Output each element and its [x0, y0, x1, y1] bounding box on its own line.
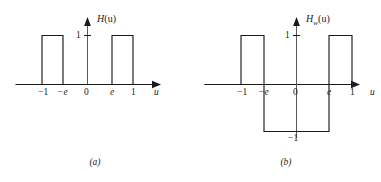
x-tick-label-e-a: e [110, 88, 114, 98]
x-axis-label-a: u [154, 88, 159, 98]
y-axis-label-b: Hw(u) [306, 14, 330, 27]
panel-a: H(u) −1 −e 0 e 1 u 1 (a) [0, 0, 190, 182]
x-tick-label-zero-a: 0 [84, 88, 89, 98]
x-tick-label-e-b: e [327, 88, 331, 98]
waveform-b [205, 36, 352, 132]
panel-caption-a: (a) [0, 157, 190, 167]
y-tick-label-neg1-b: −1 [288, 134, 298, 144]
x-axis-label-b: u [370, 88, 375, 98]
y-axis-label-a: H(u) [97, 14, 116, 27]
x-tick-label-neg1-a: −1 [38, 88, 48, 98]
y-tick-label-1-b: 1 [285, 31, 290, 41]
y-axis-a [84, 17, 91, 85]
panel-a-plot [0, 0, 190, 150]
panel-b: Hw(u) −1 −e 0 e 1 u 1 −1 (b) [191, 0, 381, 182]
y-tick-label-1-a: 1 [76, 31, 81, 41]
waveform-a [16, 36, 152, 85]
figure-container: H(u) −1 −e 0 e 1 u 1 (a) [0, 0, 381, 182]
x-tick-label-neg-e-b: −e [258, 88, 269, 98]
x-tick-label-zero-b: 0 [293, 88, 298, 98]
panel-b-plot [191, 0, 381, 150]
panel-caption-b: (b) [191, 157, 381, 167]
x-tick-label-1-b: 1 [350, 88, 355, 98]
x-tick-label-1-a: 1 [131, 88, 136, 98]
x-tick-label-neg-e-a: −e [57, 88, 68, 98]
x-tick-label-neg1-b: −1 [237, 88, 247, 98]
